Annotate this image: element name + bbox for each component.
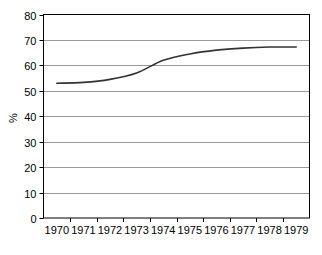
y-axis-tick-label: 10 — [24, 188, 36, 200]
x-axis-tick-label: 1970 — [45, 224, 69, 236]
x-axis-tick-label: 1976 — [204, 224, 228, 236]
y-axis-tick-label: 60 — [24, 60, 36, 72]
y-axis-tick-label: 30 — [24, 137, 36, 149]
x-axis-tick-label: 1977 — [231, 224, 255, 236]
x-axis-tick-label: 1978 — [257, 224, 281, 236]
y-axis-tick-label: 70 — [24, 35, 36, 47]
line-chart: 01020304050607080 1970197119721973197419… — [0, 0, 322, 255]
y-axis-tick-labels: 01020304050607080 — [24, 10, 36, 225]
chart-background — [0, 0, 322, 255]
y-axis-tick-label: 80 — [24, 10, 36, 22]
y-axis-tick-label: 20 — [24, 162, 36, 174]
chart-canvas: 01020304050607080 1970197119721973197419… — [0, 0, 322, 255]
y-axis-tick-label: 0 — [30, 213, 36, 225]
x-axis-tick-label: 1973 — [124, 224, 148, 236]
y-axis-tick-label: 50 — [24, 86, 36, 98]
y-axis-tick-label: 40 — [24, 111, 36, 123]
x-axis-tick-label: 1972 — [98, 224, 122, 236]
x-axis-tick-label: 1975 — [178, 224, 202, 236]
y-axis-title: % — [7, 113, 19, 123]
x-axis-tick-label: 1971 — [71, 224, 95, 236]
x-axis-tick-label: 1974 — [151, 224, 175, 236]
x-axis-tick-label: 1979 — [284, 224, 308, 236]
